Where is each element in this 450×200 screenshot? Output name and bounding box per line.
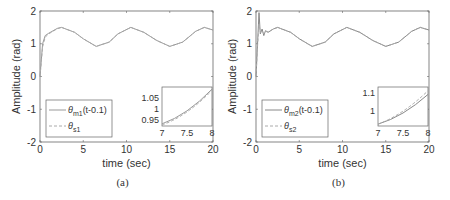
legend: θm2(t-0.1)θs2 bbox=[262, 100, 328, 137]
y-tick-label: 1 bbox=[246, 38, 252, 49]
x-tick-label: 20 bbox=[423, 144, 435, 155]
svg-text:1.1: 1.1 bbox=[362, 88, 375, 98]
svg-text:7: 7 bbox=[375, 128, 380, 138]
svg-text:7.5: 7.5 bbox=[397, 128, 410, 138]
y-tick-label: 1 bbox=[30, 38, 36, 49]
y-tick-label: 2 bbox=[30, 6, 36, 17]
svg-text:8: 8 bbox=[209, 128, 214, 138]
chart-panel-b: 05101520-2-1012time (sec)Amplitude (rad)… bbox=[216, 0, 441, 200]
svg-text:1: 1 bbox=[370, 106, 375, 116]
y-tick-label: 0 bbox=[30, 71, 36, 82]
chart-panel-a: 05101520-2-1012time (sec)Amplitude (rad)… bbox=[0, 0, 225, 200]
inset-zoom-plot: 77.580.9511.05 bbox=[141, 87, 214, 138]
y-axis-label: Amplitude (rad) bbox=[10, 39, 22, 114]
inset-zoom-plot: 77.5811.1 bbox=[362, 87, 430, 138]
x-tick-label: 5 bbox=[80, 144, 86, 155]
x-tick-label: 10 bbox=[121, 144, 133, 155]
figure-caption: (a) bbox=[116, 176, 129, 189]
legend: θm1(t-0.1)θs1 bbox=[46, 100, 112, 137]
x-tick-label: 5 bbox=[296, 144, 302, 155]
y-tick-label: -2 bbox=[243, 137, 252, 148]
x-axis-label: time (sec) bbox=[102, 157, 150, 169]
x-tick-label: 10 bbox=[337, 144, 349, 155]
y-tick-label: 2 bbox=[246, 6, 252, 17]
series-line-2 bbox=[256, 24, 429, 76]
y-axis-label: Amplitude (rad) bbox=[226, 39, 238, 114]
x-tick-label: 0 bbox=[37, 144, 43, 155]
y-tick-label: -1 bbox=[27, 104, 36, 115]
series-line-2 bbox=[40, 27, 213, 76]
svg-text:1: 1 bbox=[154, 104, 159, 114]
x-axis-label: time (sec) bbox=[318, 157, 366, 169]
x-tick-label: 15 bbox=[164, 144, 176, 155]
chart-b-svg: 05101520-2-1012time (sec)Amplitude (rad)… bbox=[216, 0, 441, 200]
series-line-1 bbox=[40, 27, 213, 76]
chart-a-svg: 05101520-2-1012time (sec)Amplitude (rad)… bbox=[0, 0, 225, 200]
svg-text:8: 8 bbox=[425, 128, 430, 138]
svg-text:7.5: 7.5 bbox=[181, 128, 194, 138]
svg-text:7: 7 bbox=[159, 128, 164, 138]
figure-caption: (b) bbox=[332, 176, 345, 189]
x-tick-label: 0 bbox=[253, 144, 259, 155]
y-tick-label: 0 bbox=[246, 71, 252, 82]
series-line-1 bbox=[256, 13, 429, 77]
svg-text:0.95: 0.95 bbox=[141, 115, 159, 125]
y-tick-label: -2 bbox=[27, 137, 36, 148]
svg-text:1.05: 1.05 bbox=[141, 93, 159, 103]
y-tick-label: -1 bbox=[243, 104, 252, 115]
x-tick-label: 15 bbox=[380, 144, 392, 155]
